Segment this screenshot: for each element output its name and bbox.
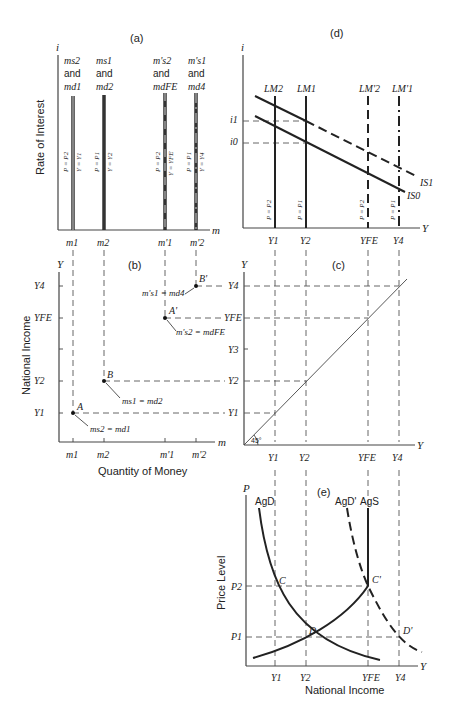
svg-text:Y = Y2: Y = Y2 <box>106 152 114 172</box>
45-degree-line <box>244 279 407 445</box>
svg-text:IS1: IS1 <box>419 177 433 188</box>
curve-1-top: ms2 <box>64 55 80 66</box>
svg-text:md4: md4 <box>188 81 205 92</box>
tick-m2-prime: m'2 <box>190 237 204 248</box>
svg-text:P = P2: P = P2 <box>265 199 273 221</box>
svg-text:Y: Y <box>241 258 249 270</box>
svg-text:IS0: IS0 <box>406 190 420 201</box>
svg-text:B': B' <box>199 273 208 284</box>
svg-text:and: and <box>188 68 205 79</box>
svg-text:D: D <box>308 625 317 636</box>
svg-text:Y2: Y2 <box>300 672 311 683</box>
svg-text:Y1: Y1 <box>268 452 279 463</box>
panel-a: (a) i m Rate of Interest ms2 and md1 ms1… <box>34 32 220 248</box>
svg-text:md1: md1 <box>64 81 81 92</box>
svg-text:m2: m2 <box>97 449 109 460</box>
panel-b-y-title: National Income <box>20 316 32 396</box>
svg-text:and: and <box>64 68 81 79</box>
svg-text:Y: Y <box>417 439 425 451</box>
svg-text:ms2 = md1: ms2 = md1 <box>90 424 131 434</box>
svg-text:m's1 = md4: m's1 = md4 <box>142 288 185 298</box>
svg-text:Y4: Y4 <box>395 672 406 683</box>
panel-b-label: (b) <box>128 259 141 271</box>
svg-text:C: C <box>279 575 286 586</box>
svg-text:45°: 45° <box>251 437 262 444</box>
tick-m1-prime: m'1 <box>158 237 172 248</box>
svg-text:Y: Y <box>57 258 65 270</box>
svg-text:m'1: m'1 <box>160 449 174 460</box>
svg-text:P = P2: P = P2 <box>62 151 70 173</box>
svg-text:AgD: AgD <box>255 496 274 507</box>
panel-b: (b) Y m National Income Quantity of Mone… <box>20 250 226 477</box>
panel-d: (d) i Y i1 i0 LM2 LM1 LM'2 LM'1 P = P2 P… <box>230 27 433 246</box>
svg-text:Y1: Y1 <box>34 407 45 418</box>
curve-2-top: ms1 <box>96 55 112 66</box>
svg-text:Y4: Y4 <box>34 280 45 291</box>
panel-b-x-title: Quantity of Money <box>98 465 188 477</box>
svg-text:Y3: Y3 <box>228 344 239 355</box>
panel-a-y-title: Rate of Interest <box>34 100 46 175</box>
svg-text:P = P1: P = P1 <box>389 200 397 221</box>
svg-text:Y4: Y4 <box>392 452 403 463</box>
svg-text:LM1: LM1 <box>296 83 316 94</box>
svg-text:A': A' <box>168 305 178 316</box>
svg-text:AgD': AgD' <box>335 496 356 507</box>
svg-text:ms1 = md2: ms1 = md2 <box>122 396 163 406</box>
svg-text:P = P1: P = P1 <box>296 200 304 221</box>
svg-text:Y = Y4: Y = Y4 <box>198 152 206 172</box>
tick-i1: i1 <box>230 114 238 125</box>
panel-a-x-axis-label: m <box>212 224 220 236</box>
svg-text:LM'1: LM'1 <box>391 83 413 94</box>
svg-text:md2: md2 <box>96 81 113 92</box>
svg-text:Y2: Y2 <box>299 452 310 463</box>
svg-text:Y4: Y4 <box>228 280 239 291</box>
point-b-prime <box>194 284 198 288</box>
svg-text:and: and <box>96 68 113 79</box>
svg-text:C': C' <box>372 574 382 585</box>
svg-text:YFE: YFE <box>358 452 376 463</box>
panel-c-label: (c) <box>332 259 345 271</box>
tick-i0: i0 <box>230 136 238 147</box>
is-lm-money-diagram: (a) i m Rate of Interest ms2 and md1 ms1… <box>0 0 457 714</box>
svg-text:Y2: Y2 <box>34 375 45 386</box>
panel-d-label: (d) <box>330 27 343 39</box>
svg-text:Y = Y1: Y = Y1 <box>75 152 83 172</box>
svg-text:D': D' <box>402 625 413 636</box>
svg-text:Y2: Y2 <box>228 375 239 386</box>
svg-text:P1: P1 <box>230 631 242 642</box>
svg-text:YFE: YFE <box>34 312 52 323</box>
svg-text:P: P <box>242 482 250 494</box>
svg-text:P = P1: P = P1 <box>185 152 193 173</box>
tick-m1: m1 <box>66 237 78 248</box>
svg-text:i: i <box>241 41 244 53</box>
panel-e: (e) P Y Price Level National Income P2 P… <box>215 470 428 696</box>
svg-text:B: B <box>107 369 113 380</box>
svg-text:mdFE: mdFE <box>153 81 177 92</box>
svg-text:LM'2: LM'2 <box>358 83 380 94</box>
svg-text:m'2: m'2 <box>192 449 206 460</box>
svg-text:Y: Y <box>420 660 428 672</box>
svg-text:P = P2: P = P2 <box>154 151 162 173</box>
panel-e-y-title: Price Level <box>215 556 227 610</box>
svg-text:Y1: Y1 <box>271 672 282 683</box>
svg-text:Y1: Y1 <box>268 235 279 246</box>
svg-text:Y1: Y1 <box>228 407 239 418</box>
svg-text:Y4: Y4 <box>393 235 404 246</box>
svg-text:P = P1: P = P1 <box>93 152 101 173</box>
panel-e-label: (e) <box>317 486 330 498</box>
curve-4-top: m's1 <box>188 55 206 66</box>
svg-text:YFE: YFE <box>224 312 242 323</box>
svg-text:P = P2: P = P2 <box>358 199 366 221</box>
svg-text:m1: m1 <box>66 449 78 460</box>
svg-text:Y2: Y2 <box>300 235 311 246</box>
svg-text:AgS: AgS <box>360 496 379 507</box>
svg-text:m: m <box>218 436 226 448</box>
panel-e-x-title: National Income <box>305 684 385 696</box>
curve-3-top: m's2 <box>153 55 171 66</box>
tick-m2: m2 <box>97 237 109 248</box>
svg-text:and: and <box>153 68 170 79</box>
svg-text:Y: Y <box>422 222 430 234</box>
is0-curve <box>255 116 405 192</box>
point-a <box>71 411 75 415</box>
panel-a-y-axis-label: i <box>56 41 59 53</box>
